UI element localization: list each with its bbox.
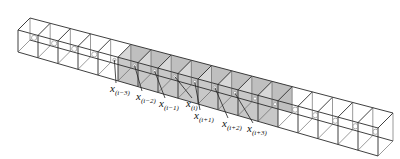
- cube-chain-graphic: [0, 0, 400, 159]
- voxel-chain-diagram: x(i−3)x(i−2)x(i−1)x(i)x(i+1)x(i+2)x(i+3): [0, 0, 400, 159]
- label-subscript: (i−2): [141, 97, 156, 105]
- label-subscript: (i+1): [199, 116, 214, 124]
- label-subscript: (i+3): [252, 129, 267, 137]
- point-label: x(i−3): [110, 83, 130, 97]
- label-subscript: (i−3): [115, 89, 130, 97]
- point-label: x(i−1): [159, 98, 179, 112]
- point-label: x(i+3): [247, 123, 267, 137]
- point-label: x(i+2): [222, 118, 242, 132]
- label-subscript: (i+2): [227, 124, 242, 132]
- point-label: x(i−2): [136, 91, 156, 105]
- label-subscript: (i−1): [164, 104, 179, 112]
- point-label: x(i+1): [194, 110, 214, 124]
